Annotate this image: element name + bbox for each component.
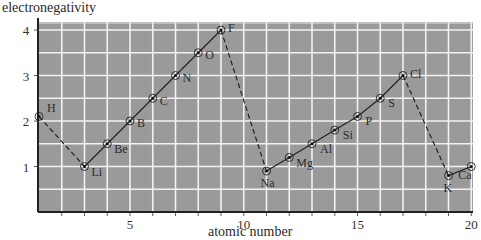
element-label-b: B bbox=[137, 116, 145, 130]
y-tick-label: 3 bbox=[23, 69, 30, 84]
data-point bbox=[38, 115, 41, 118]
data-point bbox=[83, 165, 86, 168]
data-point bbox=[288, 156, 291, 159]
plot-area bbox=[38, 22, 473, 212]
data-point bbox=[151, 97, 154, 100]
data-point bbox=[379, 97, 382, 100]
element-label-h: H bbox=[47, 101, 56, 115]
element-label-al: Al bbox=[320, 142, 333, 156]
element-label-si: Si bbox=[343, 128, 354, 142]
data-point bbox=[311, 142, 314, 145]
data-point bbox=[129, 120, 132, 123]
data-point bbox=[220, 29, 223, 32]
element-label-n: N bbox=[183, 71, 192, 85]
element-label-p: P bbox=[366, 114, 373, 128]
data-point bbox=[197, 51, 200, 54]
y-tick-label: 2 bbox=[23, 114, 30, 129]
element-label-be: Be bbox=[114, 142, 127, 156]
data-point bbox=[174, 74, 177, 77]
element-label-o: O bbox=[205, 48, 214, 62]
element-label-li: Li bbox=[92, 165, 103, 179]
data-point bbox=[333, 129, 336, 132]
element-label-ca: Ca bbox=[458, 168, 472, 182]
element-label-c: C bbox=[160, 94, 168, 108]
data-point bbox=[447, 174, 450, 177]
y-tick-label: 1 bbox=[23, 160, 30, 175]
element-label-mg: Mg bbox=[296, 156, 313, 170]
data-point bbox=[265, 170, 268, 173]
data-point bbox=[106, 142, 109, 145]
data-point bbox=[356, 115, 359, 118]
x-tick-label: 10 bbox=[237, 217, 250, 232]
x-tick-label: 20 bbox=[465, 217, 478, 232]
x-tick-label: 5 bbox=[127, 217, 134, 232]
x-tick-label: 15 bbox=[351, 217, 364, 232]
element-label-na: Na bbox=[261, 176, 276, 190]
element-label-s: S bbox=[388, 96, 395, 110]
element-label-k: K bbox=[444, 181, 453, 195]
element-label-cl: Cl bbox=[410, 67, 422, 81]
electronegativity-chart: 12345101520HLiBeBCNOFNaMgAlSiPSClKCa bbox=[0, 0, 481, 240]
data-point bbox=[402, 74, 405, 77]
y-tick-label: 4 bbox=[23, 23, 30, 38]
element-label-f: F bbox=[228, 21, 235, 35]
